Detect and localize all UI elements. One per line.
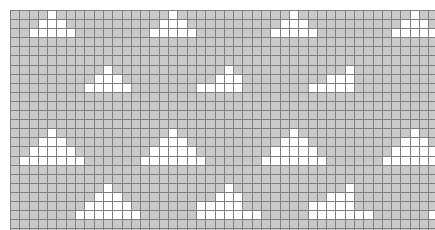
grid-cell: [104, 120, 112, 128]
grid-cell: [178, 138, 186, 146]
grid-cell: [11, 38, 19, 46]
grid-cell: [113, 47, 121, 55]
grid-cell: [104, 193, 112, 201]
grid-cell: [76, 84, 84, 92]
grid-cell: [95, 147, 103, 155]
grid-cell: [281, 220, 289, 228]
grid-cell: [225, 29, 233, 37]
grid-cell: [113, 84, 121, 92]
grid-cell: [374, 166, 382, 174]
grid-cell: [85, 38, 93, 46]
grid-cell: [216, 29, 224, 37]
grid-cell: [104, 56, 112, 64]
grid-cell: [150, 211, 158, 219]
grid-cell: [327, 147, 335, 155]
grid-cell: [197, 84, 205, 92]
grid-cell: [85, 202, 93, 210]
grid-cell: [123, 38, 131, 46]
grid-cell: [309, 29, 317, 37]
grid-cell: [392, 47, 400, 55]
grid-cell: [262, 66, 270, 74]
grid-cell: [281, 202, 289, 210]
grid-cell: [95, 93, 103, 101]
grid-cell: [11, 211, 19, 219]
grid-cell: [30, 202, 38, 210]
grid-cell: [299, 56, 307, 64]
grid-cell: [401, 75, 409, 83]
grid-cell: [225, 138, 233, 146]
grid-cell: [160, 120, 168, 128]
grid-cell: [225, 93, 233, 101]
grid-cell: [225, 202, 233, 210]
grid-cell: [309, 102, 317, 110]
grid-cell: [374, 47, 382, 55]
grid-cell: [411, 111, 419, 119]
grid-cell: [318, 229, 326, 230]
grid-cell: [132, 220, 140, 228]
grid-cell: [150, 20, 158, 28]
grid-cell: [57, 38, 65, 46]
grid-cell: [30, 193, 38, 201]
grid-cell: [113, 102, 121, 110]
grid-cell: [141, 38, 149, 46]
grid-cell: [197, 29, 205, 37]
grid-cell: [85, 184, 93, 192]
grid-cell: [197, 175, 205, 183]
grid-cell: [346, 129, 354, 137]
grid-cell: [411, 102, 419, 110]
grid-cell: [290, 202, 298, 210]
grid-cell: [392, 84, 400, 92]
grid-cell: [132, 66, 140, 74]
grid-cell: [309, 175, 317, 183]
grid-cell: [411, 29, 419, 37]
grid-cell: [132, 20, 140, 28]
grid-cell: [383, 147, 391, 155]
grid-cell: [392, 120, 400, 128]
grid-cell: [67, 47, 75, 55]
grid-cell: [95, 38, 103, 46]
grid-cell: [197, 102, 205, 110]
grid-cell: [290, 56, 298, 64]
grid-cell: [178, 66, 186, 74]
grid-cell: [383, 56, 391, 64]
grid-cell: [234, 120, 242, 128]
grid-cell: [160, 20, 168, 28]
grid-cell: [355, 175, 363, 183]
grid-cell: [169, 138, 177, 146]
grid-cell: [327, 84, 335, 92]
grid-cell: [411, 129, 419, 137]
grid-cell: [374, 75, 382, 83]
grid-cell: [364, 120, 372, 128]
grid-cell: [76, 157, 84, 165]
grid-cell: [30, 184, 38, 192]
grid-cell: [429, 93, 435, 101]
grid-cell: [141, 202, 149, 210]
grid-cell: [188, 20, 196, 28]
grid-cell: [123, 75, 131, 83]
grid-cell: [150, 11, 158, 19]
grid-cell: [178, 202, 186, 210]
grid-cell: [39, 184, 47, 192]
grid-cell: [392, 184, 400, 192]
grid-cell: [336, 66, 344, 74]
grid-cell: [411, 202, 419, 210]
grid-cell: [48, 93, 56, 101]
grid-cell: [327, 193, 335, 201]
grid-cell: [67, 93, 75, 101]
grid-cell: [216, 166, 224, 174]
grid-cell: [39, 147, 47, 155]
grid-cell: [57, 20, 65, 28]
grid-cell: [141, 129, 149, 137]
grid-cell: [197, 120, 205, 128]
grid-cell: [48, 38, 56, 46]
grid-cell: [178, 175, 186, 183]
grid-cell: [281, 47, 289, 55]
grid-cell: [318, 111, 326, 119]
grid-cell: [85, 20, 93, 28]
grid-cell: [123, 175, 131, 183]
grid-cell: [113, 147, 121, 155]
grid-cell: [327, 120, 335, 128]
grid-cell: [11, 157, 19, 165]
grid-cell: [346, 84, 354, 92]
grid-cell: [327, 220, 335, 228]
